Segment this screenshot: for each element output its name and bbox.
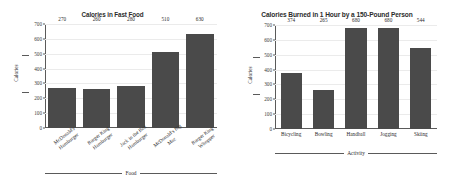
x-axis-label: Food bbox=[125, 170, 136, 176]
y-tick-label: 500 bbox=[264, 52, 272, 58]
bar[interactable] bbox=[152, 52, 180, 128]
bar-value-label: 260 bbox=[93, 16, 101, 22]
bar-value-label: 630 bbox=[196, 16, 204, 22]
y-axis-label-rule-top bbox=[253, 57, 260, 58]
x-axis-title-row: Activity bbox=[275, 150, 437, 156]
bar-item[interactable]: 280 bbox=[117, 24, 145, 128]
bar-item[interactable]: 680 bbox=[345, 25, 366, 129]
x-axis-title-rule-right bbox=[368, 153, 437, 154]
x-axis-title-rule-left bbox=[275, 153, 344, 154]
bar[interactable] bbox=[281, 73, 302, 129]
y-tick-label: 400 bbox=[34, 66, 42, 72]
x-category-labels: McDonald's Hamburger Burger King Hamburg… bbox=[45, 130, 217, 172]
x-tick-label: Bowling bbox=[307, 131, 339, 145]
bar[interactable] bbox=[410, 48, 431, 129]
bar-value-label: 510 bbox=[161, 16, 169, 22]
y-tick-label: 0 bbox=[269, 126, 272, 132]
bar[interactable] bbox=[186, 34, 214, 128]
bar[interactable] bbox=[378, 28, 399, 129]
bar-value-label: 680 bbox=[384, 17, 392, 23]
bar-item[interactable]: 680 bbox=[378, 25, 399, 129]
x-tick-label: Skiing bbox=[405, 131, 437, 145]
bar-value-label: 374 bbox=[287, 17, 295, 23]
y-axis-label-rule-bottom bbox=[253, 94, 260, 95]
bar-series: 270 260 280 510 630 bbox=[45, 24, 217, 128]
y-axis-label-rule-bottom bbox=[22, 92, 29, 93]
bar[interactable] bbox=[83, 89, 111, 128]
bar[interactable] bbox=[48, 88, 76, 128]
x-category-labels: Bicycling Bowling Handball Jogging Skiin… bbox=[275, 131, 437, 145]
bar-item[interactable]: 260 bbox=[83, 24, 111, 128]
x-axis-title-rule-right bbox=[140, 173, 217, 174]
two-bar-charts-figure: Calories in Fast Food Calories 700 600 5… bbox=[0, 0, 449, 189]
chart-title: Calories in Fast Food bbox=[0, 11, 225, 18]
x-axis-title-rule-left bbox=[45, 173, 122, 174]
y-axis-label: Calories bbox=[247, 55, 253, 95]
y-tick-label: 400 bbox=[264, 67, 272, 73]
y-tick-label: 100 bbox=[34, 110, 42, 116]
y-tick-label: 100 bbox=[264, 111, 272, 117]
y-tick-label: 300 bbox=[34, 80, 42, 86]
bar-series: 374 265 680 680 544 bbox=[275, 25, 437, 129]
chart-title: Calories Burned in 1 Hour by a 150-Pound… bbox=[225, 11, 449, 18]
bar-value-label: 680 bbox=[352, 17, 360, 23]
bar-item[interactable]: 544 bbox=[410, 25, 431, 129]
x-tick-label: Handball bbox=[340, 131, 372, 145]
y-tick-label: 0 bbox=[39, 125, 42, 131]
x-axis-label: Activity bbox=[347, 150, 365, 156]
chart-calories-burned: Calories Burned in 1 Hour by a 150-Pound… bbox=[225, 0, 449, 189]
bar[interactable] bbox=[345, 28, 366, 129]
bar-value-label: 270 bbox=[58, 16, 66, 22]
y-tick-label: 600 bbox=[264, 37, 272, 43]
plot-area: 700 600 500 400 300 200 100 0 270 2 bbox=[45, 24, 217, 128]
y-tick-label: 700 bbox=[34, 21, 42, 27]
bar-value-label: 544 bbox=[417, 17, 425, 23]
y-axis-label: Calories bbox=[13, 53, 19, 93]
y-tick-label: 300 bbox=[264, 81, 272, 87]
bar-value-label: 265 bbox=[320, 17, 328, 23]
y-axis-label-rule-top bbox=[22, 55, 29, 56]
bar-item[interactable]: 265 bbox=[313, 25, 334, 129]
bar[interactable] bbox=[313, 90, 334, 129]
y-tick-label: 600 bbox=[34, 36, 42, 42]
y-tick-label: 500 bbox=[34, 51, 42, 57]
chart-calories-in-fast-food: Calories in Fast Food Calories 700 600 5… bbox=[0, 0, 225, 189]
plot-area: 700 600 500 400 300 200 100 0 374 2 bbox=[275, 25, 437, 129]
x-tick-label: Bicycling bbox=[275, 131, 307, 145]
x-tick-label: Jogging bbox=[372, 131, 404, 145]
bar[interactable] bbox=[117, 86, 145, 128]
bar-item[interactable]: 374 bbox=[281, 25, 302, 129]
y-tick-label: 700 bbox=[264, 22, 272, 28]
bar-item[interactable]: 510 bbox=[152, 24, 180, 128]
bar-item[interactable]: 630 bbox=[186, 24, 214, 128]
bar-value-label: 280 bbox=[127, 16, 135, 22]
x-axis-title-row: Food bbox=[45, 170, 217, 176]
y-tick-label: 200 bbox=[264, 96, 272, 102]
bar-item[interactable]: 270 bbox=[48, 24, 76, 128]
y-tick-label: 200 bbox=[34, 95, 42, 101]
